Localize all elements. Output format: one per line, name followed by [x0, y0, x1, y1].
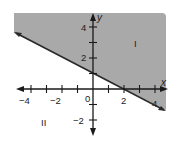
y-axis-label: y	[96, 12, 103, 23]
y-tick-label: 4	[81, 22, 86, 33]
y-axis-arrow-down-icon	[90, 128, 96, 136]
x-axis-label: x	[160, 77, 167, 88]
region-I-label: I	[134, 38, 137, 49]
graph-canvas: y x −4 −2 0 2 4 4 2 −2 I II	[0, 0, 176, 141]
x-tick-label: 4	[152, 98, 157, 109]
y-tick-label: −2	[73, 115, 84, 126]
inequality-graph: y x −4 −2 0 2 4 4 2 −2 I II	[0, 0, 176, 141]
region-II-label: II	[41, 117, 46, 128]
x-tick-label: 2	[121, 95, 126, 106]
x-axis-arrow-left-icon	[16, 86, 24, 92]
x-tick-label: −4	[19, 95, 30, 106]
y-tick-label: 2	[81, 52, 86, 63]
x-tick-label: −2	[50, 95, 61, 106]
origin-label: 0	[85, 93, 90, 104]
